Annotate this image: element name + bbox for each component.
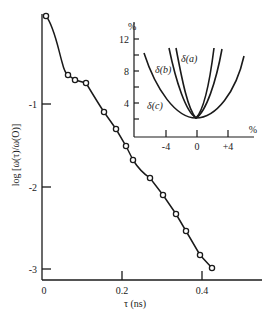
data-point xyxy=(147,175,152,180)
inset-y-tick-label: 4 xyxy=(124,98,129,109)
data-point xyxy=(113,126,118,131)
inset-x-tick-label: 0 xyxy=(195,141,200,152)
x-tick-label: 0.4 xyxy=(196,285,209,296)
y-tick-label: -3 xyxy=(29,264,37,275)
data-point xyxy=(160,192,165,197)
data-point xyxy=(72,77,77,82)
y-tick-label: -2 xyxy=(29,182,37,193)
y-tick-label: -1 xyxy=(29,99,37,110)
inset-x-tick-label: -4 xyxy=(162,141,170,152)
curve-label-b: δ(b) xyxy=(155,64,172,76)
inset-y-tick-label: 8 xyxy=(124,66,129,77)
data-point xyxy=(83,80,88,85)
data-point xyxy=(197,252,202,257)
inset-x-tick-label: +4 xyxy=(223,141,234,152)
data-point xyxy=(173,211,178,216)
curve-label-c: δ(c) xyxy=(147,100,163,112)
inset-x-unit: % xyxy=(249,124,257,135)
inset-y-unit: % xyxy=(128,21,136,32)
data-point xyxy=(183,228,188,233)
data-point xyxy=(209,265,214,270)
curve-label-a: δ(a) xyxy=(181,53,198,65)
data-point xyxy=(43,13,48,18)
inset-y-tick-label: 12 xyxy=(119,34,129,45)
data-point xyxy=(65,72,70,77)
x-tick-label: 0.2 xyxy=(116,285,129,296)
x-tick-label: 0 xyxy=(42,285,47,296)
data-point xyxy=(123,143,128,148)
y-axis-title: log [ω(τ)/ω(O)] xyxy=(10,124,22,186)
chart-canvas: -1 -2 -3 0 0.2 0.4 τ (ns) log [ω(τ)/ω(O)… xyxy=(0,0,272,314)
data-point xyxy=(130,157,135,162)
x-axis-title: τ (ns) xyxy=(124,298,146,310)
data-point xyxy=(101,109,106,114)
inset-chart: % 12 8 4 -4 0 +4 % δ(a) δ(b) δ(c) xyxy=(119,21,264,152)
